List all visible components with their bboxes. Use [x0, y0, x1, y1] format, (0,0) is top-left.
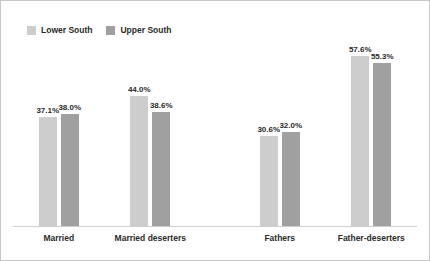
bar-married-deserters-upper-south [152, 112, 170, 226]
bar-married-upper-south [61, 114, 79, 226]
group-gap [196, 43, 234, 226]
bar-value-fathers-upper-south: 32.0% [279, 122, 302, 130]
bar-married-deserters-lower-south [130, 96, 148, 226]
bar-fathers-upper-south [282, 132, 300, 226]
plot-area: 37.1% 38.0% 44.0% 38.6% [13, 43, 417, 227]
legend-item-upper-south: Upper South [106, 26, 171, 35]
legend-swatch-icon-upper-south [106, 26, 115, 35]
category-label-married-deserters: Married deserters [105, 234, 197, 243]
bar-value-fathers-lower-south: 30.6% [257, 126, 280, 134]
bar-value-married-upper-south: 38.0% [58, 104, 81, 112]
bar-wrap-married-upper-south: 38.0% [61, 114, 79, 226]
bar-wrap-father-deserters-lower-south: 57.6% [351, 56, 369, 226]
bar-father-deserters-lower-south [351, 56, 369, 226]
bar-group-father-deserters: 57.6% 55.3% [326, 43, 418, 226]
bar-father-deserters-upper-south [373, 63, 391, 226]
category-label-father-deserters: Father-deserters [326, 234, 418, 243]
category-label-married: Married [13, 234, 105, 243]
bar-wrap-fathers-upper-south: 32.0% [282, 132, 300, 226]
category-label-fathers: Fathers [234, 234, 326, 243]
legend-item-lower-south: Lower South [27, 26, 92, 35]
bar-wrap-married-deserters-lower-south: 44.0% [130, 96, 148, 226]
bar-chart-figure: Lower South Upper South 37.1% 38.0% 44.0 [0, 0, 430, 261]
bar-wrap-married-lower-south: 37.1% [39, 117, 57, 227]
bar-wrap-married-deserters-upper-south: 38.6% [152, 112, 170, 226]
bar-group-married-deserters: 44.0% 38.6% [105, 43, 197, 226]
bar-wrap-father-deserters-upper-south: 55.3% [373, 63, 391, 226]
bar-value-father-deserters-upper-south: 55.3% [371, 53, 394, 61]
legend-swatch-icon-lower-south [27, 26, 36, 35]
category-labels: Married Married deserters Fathers Father… [13, 234, 417, 250]
bar-wrap-fathers-lower-south: 30.6% [260, 136, 278, 226]
bar-fathers-lower-south [260, 136, 278, 226]
bar-value-married-deserters-upper-south: 38.6% [150, 102, 173, 110]
bar-value-married-lower-south: 37.1% [36, 107, 59, 115]
bar-value-married-deserters-lower-south: 44.0% [128, 86, 151, 94]
bar-value-father-deserters-lower-south: 57.6% [349, 46, 372, 54]
bar-groups: 37.1% 38.0% 44.0% 38.6% [13, 43, 417, 226]
chart-legend: Lower South Upper South [27, 26, 171, 35]
bar-group-fathers: 30.6% 32.0% [234, 43, 326, 226]
legend-label-lower-south: Lower South [41, 26, 92, 35]
x-axis-baseline [13, 226, 417, 227]
bar-married-lower-south [39, 117, 57, 227]
legend-label-upper-south: Upper South [120, 26, 171, 35]
bar-group-married: 37.1% 38.0% [13, 43, 105, 226]
